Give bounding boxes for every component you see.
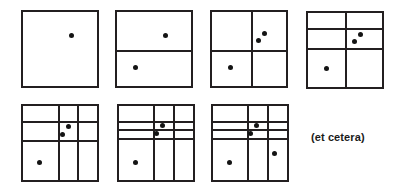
data-point-p1 (358, 32, 363, 37)
split-line-v-3 (345, 13, 347, 87)
data-point-p1 (69, 33, 74, 38)
split-line-h-2 (23, 140, 97, 142)
data-point-p3 (256, 38, 261, 43)
panel-2 (115, 10, 193, 88)
data-point-p1 (254, 123, 259, 128)
split-line-v-3 (58, 106, 60, 180)
data-point-p1 (160, 123, 165, 128)
split-line-h-3 (119, 138, 193, 140)
data-point-p3 (154, 131, 159, 136)
data-point-p1 (262, 31, 267, 36)
subdivision-diagram: (et cetera) (0, 0, 402, 194)
data-point-p3 (352, 39, 357, 44)
data-point-p2 (228, 65, 233, 70)
panel-5 (21, 104, 99, 182)
data-point-p1 (66, 124, 71, 129)
split-line-h-1 (213, 121, 287, 123)
split-line-v-5 (173, 106, 175, 180)
data-point-p1 (163, 33, 168, 38)
et-cetera-label: (et cetera) (311, 131, 365, 143)
split-line-h-3 (213, 138, 287, 140)
split-line-h-1 (119, 121, 193, 123)
split-line-v-2 (251, 12, 253, 86)
split-line-v-4 (77, 106, 79, 180)
split-line-h-1 (117, 50, 191, 52)
panel-7 (211, 104, 289, 182)
data-point-p2 (227, 160, 232, 165)
panel-4 (306, 11, 384, 89)
split-line-h-1 (212, 50, 286, 52)
data-point-p3 (60, 132, 65, 137)
data-point-p2 (37, 160, 42, 165)
panel-1 (21, 10, 99, 88)
split-line-h-1 (23, 121, 97, 123)
split-line-v-4 (247, 106, 249, 180)
data-point-p4 (272, 151, 277, 156)
panel-6 (117, 104, 195, 182)
data-point-p2 (324, 66, 329, 71)
split-line-v-4 (153, 106, 155, 180)
split-line-v-5 (267, 106, 269, 180)
panel-3 (210, 10, 288, 88)
data-point-p2 (133, 65, 138, 70)
data-point-p3 (248, 131, 253, 136)
data-point-p2 (133, 160, 138, 165)
